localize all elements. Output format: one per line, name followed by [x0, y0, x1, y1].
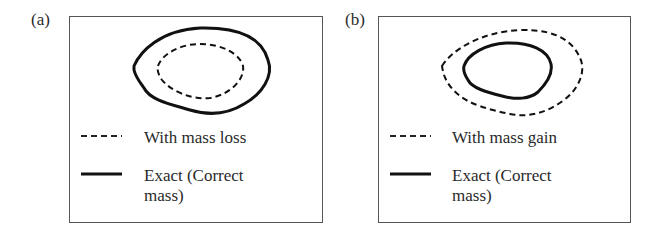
panel-a-mass-loss-contour: [158, 44, 244, 98]
contours-svg: [0, 0, 663, 230]
panel-b-exact-contour: [464, 43, 552, 98]
panel-b-legend-mass-gain: With mass gain: [452, 128, 557, 148]
panel-a-legend-exact-line2: mass): [144, 186, 184, 206]
panel-a-exact-contour: [134, 28, 270, 113]
panel-a-legend-mass-loss: With mass loss: [144, 128, 246, 148]
panel-a-legend-exact-line1: Exact (Correct: [144, 166, 244, 186]
panel-b-legend-exact-line2: mass): [452, 186, 492, 206]
panel-b-legend-exact-line1: Exact (Correct: [452, 166, 552, 186]
